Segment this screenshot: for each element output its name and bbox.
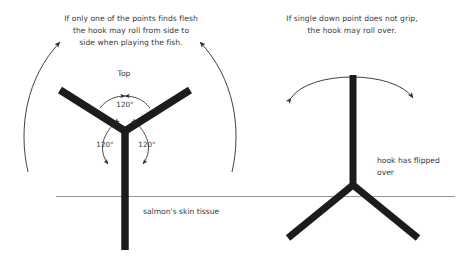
left-caption-line-2: the hook may roll from side to [73, 26, 189, 35]
diagram-svg: If only one of the points finds flesh th… [0, 0, 468, 256]
angle-label-lower-right: 120° [138, 140, 155, 149]
angle-label-upper: 120° [116, 100, 133, 109]
flipped-hook-right-arm [353, 185, 418, 238]
diagram-canvas: If only one of the points finds flesh th… [0, 0, 468, 256]
right-caption-line-2: the hook may roll over. [308, 26, 397, 35]
curved-arrow-left-icon [24, 42, 60, 172]
left-caption-line-3: side when playing the fish. [79, 38, 182, 47]
hook-left-arm [60, 90, 125, 131]
flipped-hook-left-arm [288, 185, 353, 238]
right-caption-line-1: If single down point does not grip, [286, 14, 417, 23]
curved-arrow-right-icon [200, 42, 236, 172]
top-label: Top [117, 69, 131, 78]
skin-surface-label: salmon's skin tissue [143, 207, 220, 216]
flipped-state-label-line-2: over [377, 168, 395, 177]
left-caption-line-1: If only one of the points finds flesh [64, 14, 198, 23]
hook-right-arm [125, 90, 190, 131]
angle-label-lower-left: 120° [96, 140, 113, 149]
flipped-state-label-line-1: hook has flipped [377, 156, 440, 165]
